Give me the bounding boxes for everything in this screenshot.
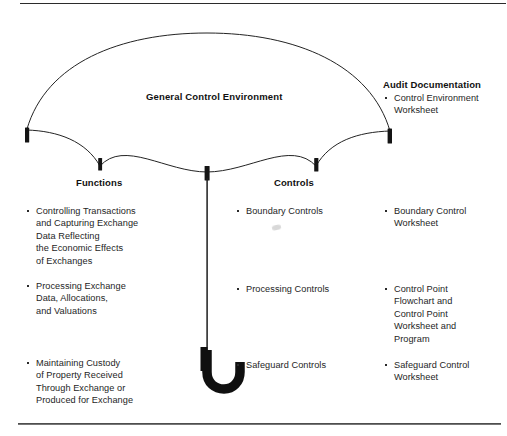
diagram-page: General Control Environment Functions Co… bbox=[0, 0, 507, 436]
bullet-dot-icon bbox=[385, 288, 387, 290]
bottom-rule bbox=[18, 423, 501, 425]
top-rule bbox=[20, 3, 506, 4]
bullet-dot-icon bbox=[237, 210, 239, 212]
bullet-dot-icon bbox=[237, 364, 239, 366]
canopy-title: General Control Environment bbox=[146, 91, 283, 102]
canopy-scallop-4 bbox=[316, 131, 390, 166]
bullet-dot-icon bbox=[385, 97, 387, 99]
list-item-functions-2: Processing Exchange Data, Allocations, a… bbox=[27, 280, 177, 317]
rib-tip-4 bbox=[314, 158, 318, 172]
canopy-scallop-2 bbox=[100, 155, 207, 172]
list-item-controls-3: Safeguard Controls bbox=[237, 359, 362, 371]
bullet-dot-icon bbox=[385, 364, 387, 366]
list-item-functions-1: Controlling Transactions and Capturing E… bbox=[27, 205, 177, 267]
rib-tip-1 bbox=[25, 128, 29, 143]
canopy-scallop-1 bbox=[27, 130, 100, 166]
list-item-audit-2: Boundary Control Worksheet bbox=[385, 205, 503, 230]
list-item-functions-3: Maintaining Custody of Property Received… bbox=[27, 357, 182, 407]
list-item-audit-3: Control Point Flowchart and Control Poin… bbox=[385, 283, 503, 345]
column-heading-controls: Controls bbox=[274, 177, 314, 188]
column-heading-functions: Functions bbox=[76, 177, 122, 188]
column-heading-audit-documentation: Audit Documentation bbox=[383, 79, 481, 90]
scan-artifact bbox=[272, 224, 282, 231]
handle-collar bbox=[201, 347, 208, 371]
list-item-audit-1: Control Environment Worksheet bbox=[385, 92, 503, 117]
bullet-dot-icon bbox=[27, 210, 29, 212]
list-item-audit-4: Safeguard Control Worksheet bbox=[385, 359, 503, 384]
rib-tips bbox=[25, 128, 392, 181]
umbrella-handle bbox=[207, 350, 240, 389]
list-item-controls-2: Processing Controls bbox=[237, 283, 362, 295]
canopy-scallop-3 bbox=[207, 155, 316, 172]
rib-tip-2 bbox=[98, 158, 102, 171]
rib-tip-5 bbox=[388, 129, 392, 144]
bullet-dot-icon bbox=[27, 362, 29, 364]
canopy-outer-arc bbox=[27, 33, 390, 131]
list-item-controls-1: Boundary Controls bbox=[237, 205, 362, 217]
bullet-dot-icon bbox=[237, 288, 239, 290]
bullet-dot-icon bbox=[385, 210, 387, 212]
rib-tip-3 bbox=[205, 166, 210, 181]
bullet-dot-icon bbox=[27, 285, 29, 287]
